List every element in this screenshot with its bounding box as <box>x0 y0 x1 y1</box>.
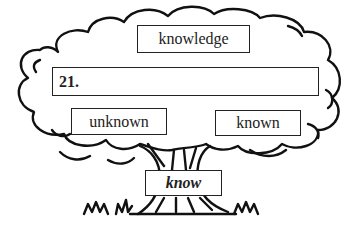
right-word-label: known <box>236 114 280 132</box>
answer-box[interactable]: 21. <box>52 67 319 96</box>
root-word-box: know <box>145 170 222 196</box>
left-word-label: unknown <box>89 113 149 131</box>
question-number: 21. <box>59 73 79 91</box>
grass-left <box>84 202 108 214</box>
top-word-label: knowledge <box>158 30 228 48</box>
top-word-box: knowledge <box>137 25 250 53</box>
left-word-box: unknown <box>71 108 167 135</box>
root-word-label: know <box>166 174 202 192</box>
right-word-box: known <box>215 110 301 136</box>
grass-right <box>234 202 258 214</box>
word-tree-diagram: knowledge 21. unknown known know <box>0 0 352 228</box>
